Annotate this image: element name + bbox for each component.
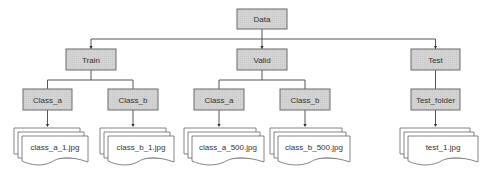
file-train-class-b-label: class_b_1.jpg bbox=[117, 143, 166, 152]
node-valid-class-b-label: Class_b bbox=[291, 96, 320, 105]
node-data-label: Data bbox=[254, 15, 271, 24]
arrow-file-train-class-b-icon bbox=[131, 124, 134, 127]
arrow-file-valid-class-a-icon bbox=[217, 124, 220, 127]
node-train[interactable]: Train bbox=[66, 49, 116, 70]
file-train-class-a-label: class_a_1.jpg bbox=[31, 143, 80, 152]
arrow-file-test-folder-icon bbox=[434, 124, 437, 127]
node-train-class-a-label: Class_a bbox=[33, 96, 62, 105]
file-train-class-b-stack[interactable]: class_b_1.jpg bbox=[100, 128, 174, 165]
arrow-file-valid-class-b-icon bbox=[303, 124, 306, 127]
node-test[interactable]: Test bbox=[411, 49, 460, 70]
node-valid-label: Valid bbox=[253, 56, 270, 65]
node-train-class-b-label: Class_b bbox=[119, 96, 148, 105]
file-train-class-a-stack[interactable]: class_a_1.jpg bbox=[14, 128, 88, 165]
node-test-folder-label: Test_folder bbox=[416, 96, 455, 105]
node-train-class-b[interactable]: Class_b bbox=[108, 89, 158, 110]
folder-structure-diagram: Data Train Valid Test Class_a Class_b Cl… bbox=[0, 0, 488, 173]
file-valid-class-b-stack[interactable]: class_b_500.jpg bbox=[270, 128, 350, 165]
node-train-label: Train bbox=[82, 56, 100, 65]
node-data[interactable]: Data bbox=[237, 9, 287, 29]
file-valid-class-a-label: class_a_500.jpg bbox=[199, 143, 257, 152]
file-valid-class-a-stack[interactable]: class_a_500.jpg bbox=[184, 128, 264, 165]
file-valid-class-b-label: class_b_500.jpg bbox=[285, 143, 343, 152]
node-test-folder[interactable]: Test_folder bbox=[411, 89, 460, 110]
node-valid-class-a-label: Class_a bbox=[205, 96, 234, 105]
arrow-file-train-class-a-icon bbox=[46, 124, 49, 127]
node-valid-class-b[interactable]: Class_b bbox=[280, 89, 330, 110]
node-train-class-a[interactable]: Class_a bbox=[23, 89, 72, 110]
file-test-folder-stack[interactable]: test_1.jpg bbox=[400, 128, 478, 165]
file-test-folder-label: test_1.jpg bbox=[426, 143, 461, 152]
node-valid[interactable]: Valid bbox=[237, 49, 287, 70]
node-test-label: Test bbox=[428, 56, 443, 65]
connectors bbox=[46, 29, 437, 127]
node-valid-class-a[interactable]: Class_a bbox=[194, 89, 244, 110]
